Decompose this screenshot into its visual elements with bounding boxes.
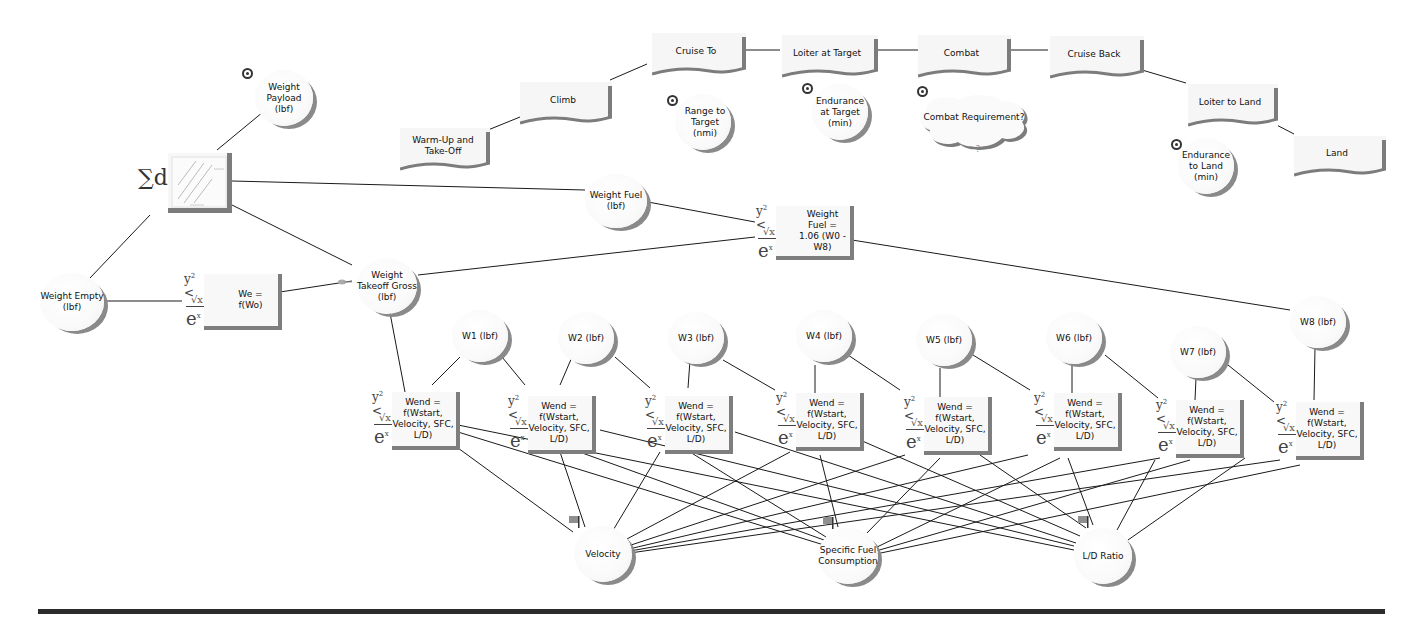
formula-icon: y2<√xex (182, 272, 208, 330)
variable-label: W8 (lbf) (1300, 317, 1336, 328)
equation-label: We = f(Wo) (226, 289, 275, 311)
equation-we[interactable]: y2<√xex We = f(Wo) (204, 274, 282, 330)
phase-land[interactable]: Land (1294, 136, 1386, 174)
variable-velocity[interactable]: Velocity (574, 526, 632, 582)
cloud-shape: ? (918, 92, 1030, 154)
phase-label: Cruise To (652, 46, 740, 57)
variable-label: W2 (lbf) (568, 333, 604, 344)
variable-w7[interactable]: W7 (lbf) (1170, 326, 1226, 378)
shadow-bar (608, 86, 612, 118)
requirement-label: Range to Target (nmi) (683, 106, 727, 139)
phase-loiter-to-land[interactable]: Loiter to Land (1188, 84, 1278, 124)
bullseye-icon (1171, 139, 1182, 150)
equation-weight-fuel[interactable]: y2<√xex Weight Fuel = 1.06 (W0 - W8) (776, 206, 854, 260)
equation-wend-6[interactable]: y2<√xex Wend = f(Wstart, Velocity, SFC, … (1054, 393, 1122, 451)
variable-w4[interactable]: W4 (lbf) (796, 310, 852, 362)
shadow-bar (1007, 39, 1011, 71)
requirement-endurance-at-target[interactable]: Endurance at Target (min) (812, 84, 868, 140)
equation-label: Wend = f(Wstart, Velocity, SFC, L/D) (924, 402, 986, 446)
variable-label: Weight Fuel (lbf) (585, 190, 647, 212)
equation-wend-7[interactable]: y2<√xex Wend = f(Wstart, Velocity, SFC, … (1176, 400, 1244, 458)
variable-weight-takeoff-gross[interactable]: Weight Takeoff Gross (lbf) (357, 258, 417, 314)
shadow-bar (486, 132, 490, 164)
chart-thumbnail-icon (170, 155, 230, 209)
shadow-bar (742, 37, 746, 69)
variable-label: W3 (lbf) (678, 333, 714, 344)
svg-text:?: ? (976, 144, 981, 154)
equation-label: Wend = f(Wstart, Velocity, SFC, L/D) (1054, 398, 1116, 442)
equation-label: Wend = f(Wstart, Velocity, SFC, L/D) (1176, 405, 1238, 449)
phase-warmup-takeoff[interactable]: Warm-Up and Take-Off (400, 128, 490, 168)
equation-label: Weight Fuel = 1.06 (W0 - W8) (798, 209, 847, 253)
equation-label: Wend = f(Wstart, Velocity, SFC, L/D) (392, 397, 454, 441)
variable-label: W5 (lbf) (926, 335, 962, 346)
variable-label: Weight Empty (lbf) (40, 291, 104, 313)
wave-edge (520, 115, 612, 127)
bullseye-icon (802, 83, 813, 94)
phase-label: Combat (918, 48, 1005, 59)
equation-wend-4[interactable]: y2<√xex Wend = f(Wstart, Velocity, SFC, … (796, 393, 864, 451)
equation-wend-3[interactable]: y2<√xex Wend = f(Wstart, Velocity, SFC, … (665, 396, 733, 454)
phase-combat[interactable]: Combat (918, 35, 1011, 75)
wave-edge (652, 66, 746, 78)
link-connector-icon (338, 279, 352, 285)
shadow-bar (1140, 40, 1144, 72)
equation-wend-1[interactable]: y2<√xex Wend = f(Wstart, Velocity, SFC, … (392, 392, 460, 450)
wave-edge (400, 161, 490, 173)
variable-specific-fuel-consumption[interactable]: Specific Fuel Consumption (818, 528, 878, 584)
phase-label: Cruise Back (1050, 49, 1138, 60)
phase-label: Land (1294, 148, 1380, 159)
horizontal-rule (38, 609, 1385, 614)
equation-wend-5[interactable]: y2<√xex Wend = f(Wstart, Velocity, SFC, … (924, 397, 992, 455)
sigma-symbol: ∑d (138, 165, 168, 190)
equation-label: Wend = f(Wstart, Velocity, SFC, L/D) (528, 401, 590, 445)
phase-cruise-back[interactable]: Cruise Back (1050, 36, 1144, 76)
variable-w6[interactable]: W6 (lbf) (1046, 312, 1102, 364)
variable-label: Velocity (574, 549, 632, 560)
flag-icon (1077, 515, 1091, 529)
variable-label: L/D Ratio (1074, 551, 1132, 562)
variable-w3[interactable]: W3 (lbf) (668, 312, 724, 364)
variable-label: W1 (lbf) (462, 331, 498, 342)
requirement-label: Endurance to Land (min) (1178, 150, 1234, 183)
variable-label: Weight Payload (lbf) (263, 82, 305, 115)
variable-ld-ratio[interactable]: L/D Ratio (1074, 528, 1132, 584)
bullseye-icon (667, 95, 678, 106)
variable-w1[interactable]: W1 (lbf) (452, 310, 508, 362)
wave-edge (918, 68, 1011, 80)
shadow-bar (1274, 88, 1278, 120)
variable-label: Specific Fuel Consumption (818, 545, 878, 567)
requirement-range-to-target[interactable]: Range to Target (nmi) (675, 94, 731, 150)
variable-w5[interactable]: W5 (lbf) (916, 314, 972, 366)
shadow-bar (1382, 140, 1386, 170)
variable-w2[interactable]: W2 (lbf) (558, 312, 614, 364)
flag-icon (568, 515, 582, 529)
variable-label: Weight Takeoff Gross (lbf) (357, 270, 417, 303)
wave-edge (1294, 167, 1386, 179)
variable-w8[interactable]: W8 (lbf) (1290, 296, 1346, 348)
wave-edge (1188, 117, 1278, 129)
phase-climb[interactable]: Climb (520, 82, 612, 122)
influence-diagram-canvas: Warm-Up and Take-Off Climb Cruise To Loi… (0, 0, 1418, 627)
equation-label: Wend = f(Wstart, Velocity, SFC, L/D) (796, 398, 858, 442)
flag-icon (822, 516, 836, 530)
phase-cruise-to[interactable]: Cruise To (652, 33, 746, 73)
requirement-endurance-to-land[interactable]: Endurance to Land (min) (1178, 138, 1234, 194)
phase-label: Loiter at Target (782, 48, 872, 59)
phase-label: Loiter to Land (1188, 97, 1272, 108)
variable-label: W4 (lbf) (806, 331, 842, 342)
requirement-label: Endurance at Target (min) (812, 96, 868, 129)
variable-weight-fuel[interactable]: Weight Fuel (lbf) (585, 174, 647, 228)
wave-edge (782, 68, 878, 80)
phase-label: Climb (520, 95, 606, 106)
variable-weight-payload[interactable]: Weight Payload (lbf) (255, 70, 313, 126)
shadow-bar (874, 39, 878, 71)
variable-label: W6 (lbf) (1056, 333, 1092, 344)
requirement-combat[interactable]: ? Combat Requirement? (918, 92, 1030, 154)
phase-loiter-at-target[interactable]: Loiter at Target (782, 35, 878, 75)
requirement-label: Combat Requirement? (922, 112, 1026, 123)
equation-wend-2[interactable]: y2<√xex Wend = f(Wstart, Velocity, SFC, … (528, 396, 596, 454)
equation-wend-8[interactable]: y2<√xex Wend = f(Wstart, Velocity, SFC, … (1296, 402, 1364, 460)
variable-weight-empty[interactable]: Weight Empty (lbf) (40, 273, 104, 331)
summary-sum-node[interactable]: ∑d (168, 153, 232, 213)
